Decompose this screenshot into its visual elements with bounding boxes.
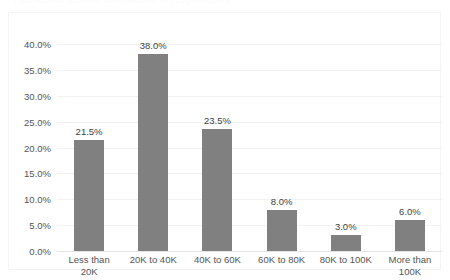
bar-value-label: 23.5% xyxy=(204,115,231,126)
bar-slot: 8.0% xyxy=(250,44,314,251)
y-axis-tick-label: 25.0% xyxy=(5,116,51,127)
y-axis-tick-label: 20.0% xyxy=(5,142,51,153)
bar-slot: 3.0% xyxy=(314,44,378,251)
bar[interactable] xyxy=(395,220,425,251)
bar-slot: 6.0% xyxy=(378,44,442,251)
chart-container: 0.0%5.0%10.0%15.0%20.0%25.0%30.0%35.0%40… xyxy=(8,12,441,270)
plot-area: 0.0%5.0%10.0%15.0%20.0%25.0%30.0%35.0%40… xyxy=(57,44,442,251)
bar-slot: 21.5% xyxy=(57,44,121,251)
y-axis-tick-label: 10.0% xyxy=(5,194,51,205)
y-axis-tick-label: 40.0% xyxy=(5,39,51,50)
y-axis-tick-label: 0.0% xyxy=(5,246,51,257)
cropped-title-remnant: Household income distribution of respond… xyxy=(0,0,450,11)
bar-value-label: 38.0% xyxy=(140,40,167,51)
axis-baseline xyxy=(57,251,442,252)
y-axis-tick-label: 5.0% xyxy=(5,220,51,231)
bar[interactable] xyxy=(74,140,104,251)
bar-value-label: 21.5% xyxy=(76,126,103,137)
x-axis-tick-label: 40K to 60K xyxy=(185,254,249,278)
y-axis-tick-label: 30.0% xyxy=(5,90,51,101)
x-axis-tick-label: 20K to 40K xyxy=(121,254,185,278)
bar-slot: 38.0% xyxy=(121,44,185,251)
bar-slot: 23.5% xyxy=(185,44,249,251)
x-axis-tick-label: 80K to 100K xyxy=(314,254,378,278)
x-axis-labels: Less than 20K20K to 40K40K to 60K60K to … xyxy=(57,254,442,278)
y-axis-tick-label: 35.0% xyxy=(5,64,51,75)
cropped-title-text: Household income distribution of respond… xyxy=(14,0,230,5)
bar[interactable] xyxy=(331,235,361,251)
x-axis-tick-label: Less than 20K xyxy=(57,254,121,278)
x-axis-tick-label: More than 100K xyxy=(378,254,442,278)
bar[interactable] xyxy=(202,129,232,251)
bar-value-label: 8.0% xyxy=(271,196,293,207)
bar[interactable] xyxy=(267,210,297,251)
bar-value-label: 3.0% xyxy=(335,221,357,232)
bars-group: 21.5%38.0%23.5%8.0%3.0%6.0% xyxy=(57,44,442,251)
x-axis-tick-label: 60K to 80K xyxy=(250,254,314,278)
y-axis-tick-label: 15.0% xyxy=(5,168,51,179)
bar-value-label: 6.0% xyxy=(399,206,421,217)
bar[interactable] xyxy=(138,54,168,251)
